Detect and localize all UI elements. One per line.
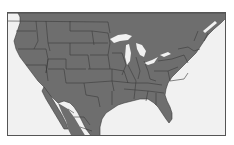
us-map[interactable] bbox=[8, 13, 226, 136]
land-mass bbox=[8, 13, 226, 136]
map-frame bbox=[7, 12, 226, 136]
